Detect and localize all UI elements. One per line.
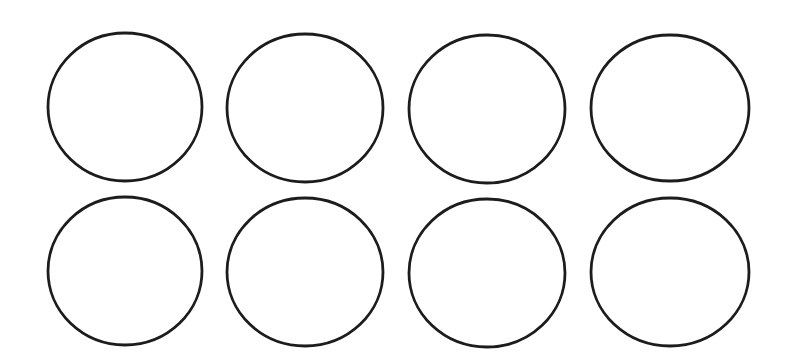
circle-grid-canvas: [0, 0, 790, 364]
circle-r2-c1: [48, 197, 202, 345]
circle-r2-c2: [227, 198, 383, 346]
circle-r1-c3: [409, 35, 565, 183]
circle-r1-c4: [591, 35, 749, 181]
circle-r1-c2: [227, 34, 383, 182]
circle-r2-c3: [409, 199, 565, 347]
circle-r1-c1: [48, 33, 202, 181]
circle-grid: [0, 0, 790, 364]
circle-r2-c4: [591, 198, 749, 346]
